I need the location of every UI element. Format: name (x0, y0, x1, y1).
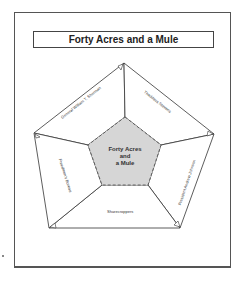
segment-label-sharecroppers: Sharecroppers (107, 209, 133, 214)
stray-mark (2, 255, 4, 257)
center-label-line1: Forty Acres (100, 146, 150, 153)
concept-diagram (0, 0, 248, 286)
center-label: Forty Acres and a Mule (100, 146, 150, 167)
center-label-line2: and (100, 153, 150, 160)
center-label-line3: a Mule (100, 160, 150, 167)
